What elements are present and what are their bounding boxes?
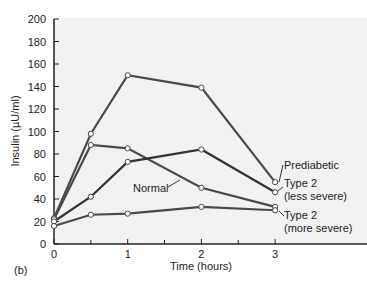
x-tick-label: 0 xyxy=(51,248,57,260)
y-tick-label: 20 xyxy=(34,216,46,228)
data-point-marker xyxy=(125,146,130,151)
panel-label: (b) xyxy=(14,264,27,276)
y-tick-label: 200 xyxy=(28,13,46,25)
series-label: (less severe) xyxy=(284,190,347,202)
x-tick-label: 2 xyxy=(198,248,204,260)
data-point-marker xyxy=(125,211,130,216)
insulin-line-chart: 0204060801001201401601802000123 Prediabe… xyxy=(0,0,367,289)
x-tick-label: 3 xyxy=(272,248,278,260)
x-axis-label: Time (hours) xyxy=(170,260,232,272)
data-point-marker xyxy=(51,223,56,228)
y-tick-label: 100 xyxy=(28,126,46,138)
x-tick-label: 1 xyxy=(125,248,131,260)
data-point-marker xyxy=(199,85,204,90)
series-label: Type 2 xyxy=(284,209,317,221)
data-point-marker xyxy=(199,185,204,190)
y-tick-label: 60 xyxy=(34,171,46,183)
data-point-marker xyxy=(88,131,93,136)
data-point-marker xyxy=(273,180,278,185)
y-tick-label: 160 xyxy=(28,58,46,70)
data-point-marker xyxy=(199,147,204,152)
series-label: (more severe) xyxy=(284,222,352,234)
data-point-marker xyxy=(88,212,93,217)
data-point-marker xyxy=(125,159,130,164)
data-point-marker xyxy=(88,194,93,199)
data-point-marker xyxy=(273,208,278,213)
y-tick-label: 80 xyxy=(34,148,46,160)
y-tick-label: 140 xyxy=(28,81,46,93)
y-tick-label: 0 xyxy=(40,238,46,250)
data-point-marker xyxy=(88,142,93,147)
y-tick-label: 180 xyxy=(28,36,46,48)
series-label: Type 2 xyxy=(284,177,317,189)
y-tick-label: 120 xyxy=(28,103,46,115)
series-label: Normal xyxy=(133,182,168,194)
series-label: Prediabetic xyxy=(284,159,340,171)
y-tick-label: 40 xyxy=(34,193,46,205)
data-point-marker xyxy=(273,190,278,195)
data-point-marker xyxy=(199,204,204,209)
plot-background xyxy=(54,18,367,244)
y-axis-label: Insulin (µU/ml) xyxy=(9,95,21,166)
data-point-marker xyxy=(125,73,130,78)
